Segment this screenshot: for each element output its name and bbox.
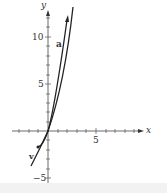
- bottom-margin: [0, 183, 167, 193]
- curve-a-arrow-icon: [65, 15, 69, 22]
- curve-a-label: a: [56, 40, 62, 49]
- x-axis-arrow-icon: [138, 129, 144, 133]
- y-axis-label: y: [41, 1, 46, 10]
- chart-canvas: [0, 0, 167, 193]
- curve-v-start-dot: [37, 146, 40, 149]
- y-tick-5-label: 5: [38, 80, 44, 89]
- curve-v-label: v: [29, 152, 34, 160]
- y-tick-10-label: 10: [32, 33, 43, 42]
- y-axis-arrow-icon: [46, 10, 50, 16]
- x-axis-label: x: [146, 126, 151, 135]
- curve-v: [38, 7, 73, 147]
- x-tick-5-label: 5: [93, 136, 99, 145]
- y-tick-neg5-label: −5: [33, 174, 46, 183]
